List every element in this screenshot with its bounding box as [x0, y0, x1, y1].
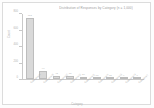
x-label-cell: Category A: [23, 81, 37, 101]
y-axis-tick-label: 600: [14, 26, 18, 29]
bar[interactable]: [120, 77, 128, 79]
y-axis-tick: [19, 79, 22, 80]
y-axis-tick: [19, 13, 22, 14]
x-label-cell: Category F: [91, 81, 105, 101]
x-label-cell: Category H: [118, 81, 132, 101]
bar-cell[interactable]: 9: [117, 14, 130, 79]
y-axis-tick-label: 800: [14, 10, 18, 13]
chart-title: Distribution of Responses by Category (n…: [52, 5, 140, 12]
bar-value-label: 96: [36, 67, 49, 70]
x-label-cell: Category G: [104, 81, 118, 101]
bar-cell[interactable]: 96: [36, 14, 49, 79]
bar-value-label: 752: [23, 14, 36, 17]
bar-cell[interactable]: 18: [90, 14, 103, 79]
y-axis-tick-label: 200: [14, 59, 18, 62]
bar-cell[interactable]: 33: [63, 14, 76, 79]
y-axis-tick-label: 0: [17, 76, 19, 79]
bar-cell[interactable]: 26: [77, 14, 90, 79]
y-axis-title: Count: [7, 31, 11, 38]
x-axis-title: Category: [0, 102, 154, 106]
plot-area: 0200400600800 75296423326181296: [22, 14, 144, 80]
x-label-cell: Category E: [77, 81, 91, 101]
bar-cell[interactable]: 12: [104, 14, 117, 79]
bar-cell[interactable]: 42: [50, 14, 63, 79]
x-label-cell: Category D: [64, 81, 78, 101]
y-axis-tick: [19, 46, 22, 47]
y-axis-tick-label: 400: [14, 43, 18, 46]
x-axis-labels: Category ACategory BCategory CCategory D…: [23, 81, 145, 101]
bar-series: 75296423326181296: [23, 14, 144, 79]
y-axis-tick: [19, 30, 22, 31]
bar-cell[interactable]: 752: [23, 14, 36, 79]
bar[interactable]: [26, 18, 34, 79]
x-label-cell: Category C: [50, 81, 64, 101]
x-label-cell: Category B: [37, 81, 51, 101]
x-label-cell: Category I: [132, 81, 146, 101]
y-axis-tick: [19, 63, 22, 64]
bar-cell[interactable]: 6: [131, 14, 144, 79]
chart-figure: Distribution of Responses by Category (n…: [0, 0, 154, 108]
